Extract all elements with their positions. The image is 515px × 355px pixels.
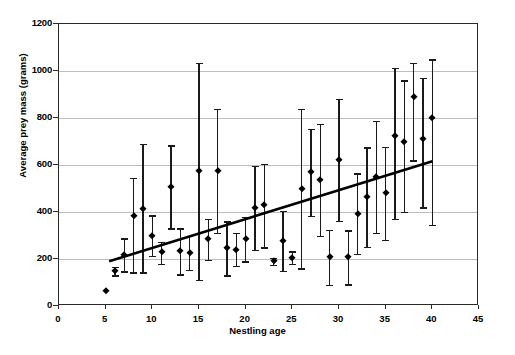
y-tick-label: 1000 [6,64,52,75]
trendline [59,24,477,304]
y-tick-label: 800 [6,111,52,122]
x-tick-mark [151,305,152,309]
y-tick-mark [53,164,58,165]
x-tick-label: 30 [323,313,353,324]
plot-area [58,23,478,305]
y-tick-label: 600 [6,158,52,169]
x-axis-title: Nestling age [0,325,515,336]
y-tick-mark [53,23,58,24]
x-tick-label: 15 [183,313,213,324]
y-tick-mark [53,70,58,71]
x-tick-mark [385,305,386,309]
x-tick-mark [198,305,199,309]
x-tick-label: 10 [136,313,166,324]
x-tick-label: 40 [416,313,446,324]
x-tick-label: 35 [370,313,400,324]
y-tick-label: 200 [6,252,52,263]
x-tick-label: 45 [463,313,493,324]
x-tick-mark [58,305,59,309]
y-tick-label: 400 [6,205,52,216]
x-tick-mark [431,305,432,309]
x-tick-mark [338,305,339,309]
y-tick-mark [53,117,58,118]
y-tick-label: 0 [6,299,52,310]
y-tick-label: 1200 [6,17,52,28]
x-tick-mark [105,305,106,309]
x-tick-label: 5 [90,313,120,324]
x-tick-mark [291,305,292,309]
y-tick-mark [53,258,58,259]
chart-figure: 020040060080010001200 051015202530354045… [0,0,515,355]
x-tick-label: 20 [230,313,260,324]
x-tick-label: 25 [276,313,306,324]
x-tick-label: 0 [43,313,73,324]
y-tick-mark [53,211,58,212]
x-tick-mark [478,305,479,309]
y-axis-title: Average prey mass (grams) [17,26,28,206]
x-tick-mark [245,305,246,309]
